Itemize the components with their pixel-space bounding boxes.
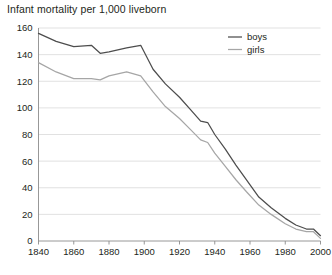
x-axis-tickmarks [39, 241, 321, 245]
x-axis-tick-labels: 184018601880190019201940196019802000 [28, 246, 331, 257]
legend-label-boys: boys [247, 31, 267, 42]
y-tick-label: 60 [22, 156, 33, 167]
y-axis-tick-labels: 020406080100120140160 [17, 22, 33, 246]
x-tick-label: 1900 [134, 246, 155, 257]
x-tick-label: 1940 [204, 246, 225, 257]
chart-plot: 020406080100120140160 184018601880190019… [0, 0, 332, 275]
y-tick-label: 80 [22, 129, 33, 140]
x-tick-label: 1860 [63, 246, 84, 257]
series-line-girls [39, 63, 321, 239]
y-tick-label: 40 [22, 182, 33, 193]
series-lines-group [39, 33, 321, 238]
legend-label-girls: girls [247, 44, 265, 55]
y-tick-label: 140 [17, 49, 33, 60]
x-tick-label: 1840 [28, 246, 49, 257]
x-tick-label: 1880 [98, 246, 119, 257]
y-tick-label: 120 [17, 76, 33, 87]
x-tick-label: 1980 [275, 246, 296, 257]
gridlines-group [39, 28, 321, 214]
y-tick-label: 100 [17, 102, 33, 113]
chart-container: Infant mortality per 1,000 liveborn 0204… [0, 0, 332, 275]
x-tick-label: 2000 [310, 246, 331, 257]
y-tick-label: 0 [27, 235, 32, 246]
x-tick-label: 1960 [239, 246, 260, 257]
y-tick-label: 160 [17, 22, 33, 33]
y-tick-label: 20 [22, 209, 33, 220]
chart-legend: boysgirls [228, 31, 267, 55]
x-tick-label: 1920 [169, 246, 190, 257]
